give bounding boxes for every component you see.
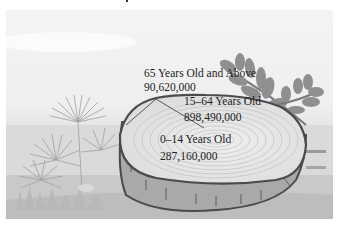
- chart-illustration: 65 Years Old and Above 90,620,000 15–64 …: [6, 10, 333, 219]
- scene-graphic: [6, 10, 333, 219]
- cloud: [6, 32, 136, 52]
- label-65-plus-value: 90,620,000: [144, 82, 196, 94]
- label-65-plus-name: 65 Years Old and Above: [144, 68, 256, 80]
- boat-icon: [306, 150, 326, 153]
- label-15-64-name: 15–64 Years Old: [184, 96, 261, 108]
- label-0-14-name: 0–14 Years Old: [160, 134, 231, 146]
- title-remnant: [126, 0, 128, 2]
- boat-icon: [306, 166, 326, 169]
- label-0-14-value: 287,160,000: [160, 151, 218, 163]
- label-15-64-value: 898,490,000: [184, 112, 242, 124]
